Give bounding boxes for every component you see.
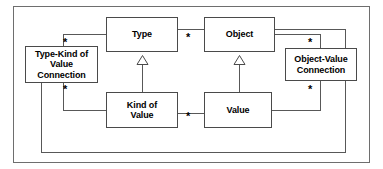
multiplicity-kind-of-value-left: * <box>63 85 67 93</box>
edge-value-to-object-value-horizontal <box>271 110 321 111</box>
node-type[interactable]: Type <box>106 17 178 52</box>
diagram-canvas: Type-Kind of Value Connection Type Objec… <box>0 0 383 169</box>
edge-object-to-object-value-vertical <box>320 34 321 49</box>
multiplicity-type-object: * <box>186 33 190 41</box>
node-object[interactable]: Object <box>204 17 275 52</box>
generalization-triangle-object <box>233 51 246 69</box>
multiplicity-kind-value: * <box>186 112 190 120</box>
node-label-kind-of-value: Kind of Value <box>125 100 159 121</box>
node-type-kind-of-value-connection[interactable]: Type-Kind of Value Connection <box>25 46 98 83</box>
edge-object-right-to-far-right <box>274 29 346 30</box>
edge-bottom-loop-horizontal <box>41 152 346 153</box>
node-kind-of-value[interactable]: Kind of Value <box>106 92 178 128</box>
edge-bottom-loop-left-vertical <box>41 83 42 153</box>
multiplicity-object-right: * <box>308 38 312 46</box>
node-label-object-value-connection: Object-Value Connection <box>292 54 349 75</box>
node-label-value: Value <box>224 105 251 116</box>
edge-kind-of-value-to-type-kind-horizontal <box>63 110 107 111</box>
node-label-type-kind-of-value-connection: Type-Kind of Value Connection <box>33 49 90 81</box>
edge-type-to-type-kind-horizontal <box>63 34 107 35</box>
node-object-value-connection[interactable]: Object-Value Connection <box>285 48 357 81</box>
generalization-triangle-type <box>136 51 149 69</box>
edge-value-to-object-value-vertical <box>320 81 321 111</box>
edge-type-to-object <box>178 29 205 30</box>
node-label-object: Object <box>224 29 255 40</box>
node-value[interactable]: Value <box>204 92 272 128</box>
multiplicity-type-left: * <box>63 38 67 46</box>
edge-object-to-object-value-horizontal <box>274 34 321 35</box>
multiplicity-object-value-lower: * <box>308 85 312 93</box>
node-label-type: Type <box>130 29 154 40</box>
edge-kind-of-value-to-value <box>178 113 205 114</box>
